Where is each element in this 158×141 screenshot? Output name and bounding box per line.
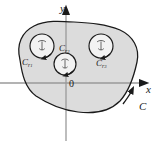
Cr1-label-subnum: 1 (30, 63, 32, 68)
figure-container: y x 0 C Cr1 Cr2 Cr3 (0, 0, 158, 141)
inner-contour-label-Cr3: Cr3 (96, 59, 107, 70)
Cr2-label-subnum: 2 (67, 49, 69, 54)
inner-contour-Cr3 (89, 34, 113, 58)
x-axis-label: x (146, 84, 151, 95)
inner-contour-Cr2 (54, 53, 76, 75)
origin-label: 0 (69, 79, 74, 89)
figure-canvas (0, 0, 158, 141)
inner-contour-Cr1 (30, 34, 54, 58)
Cr3-label-subnum: 3 (104, 64, 106, 69)
inner-contour-label-Cr1: Cr1 (22, 58, 33, 69)
y-axis-label: y (60, 3, 65, 14)
inner-contour-label-Cr2: Cr2 (59, 44, 70, 55)
outer-contour-label: C (139, 101, 146, 112)
